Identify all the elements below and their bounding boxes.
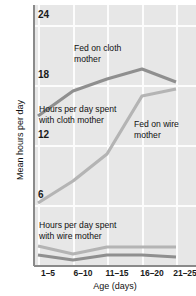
annotation-hours-with-wire-mother: Hours per day spent with wire mother <box>39 220 116 241</box>
chart-figure: Fed on cloth mother Hours per day spent … <box>0 0 196 296</box>
y-axis-title: Mean hours per day <box>15 65 25 215</box>
x-tick-label-4: 16–20 <box>140 268 164 278</box>
x-tick-label-5: 21–25 <box>173 268 196 278</box>
series-line-3 <box>38 255 176 260</box>
y-tick-label-12: 12 <box>38 129 49 140</box>
series-line-2 <box>38 246 176 254</box>
plot-area: Fed on cloth mother Hours per day spent … <box>34 5 196 265</box>
annotation-hours-with-cloth-mother: Hours per day spent with cloth mother <box>39 104 116 125</box>
x-tick-label-3: 11–15 <box>105 268 128 278</box>
x-axis-line <box>34 265 196 267</box>
x-axis-title: Age (days) <box>34 281 196 291</box>
x-tick-label-1: 1–5 <box>41 268 55 278</box>
annotation-fed-on-cloth-mother: Fed on cloth mother <box>74 43 121 64</box>
y-tick-label-18: 18 <box>38 69 49 80</box>
y-axis-line <box>33 5 35 266</box>
y-tick-label-24: 24 <box>38 9 49 20</box>
x-tick-label-2: 6–10 <box>74 268 93 278</box>
annotation-fed-on-wire-mother: Fed on wire mother <box>134 119 179 140</box>
y-tick-label-6: 6 <box>38 189 44 200</box>
